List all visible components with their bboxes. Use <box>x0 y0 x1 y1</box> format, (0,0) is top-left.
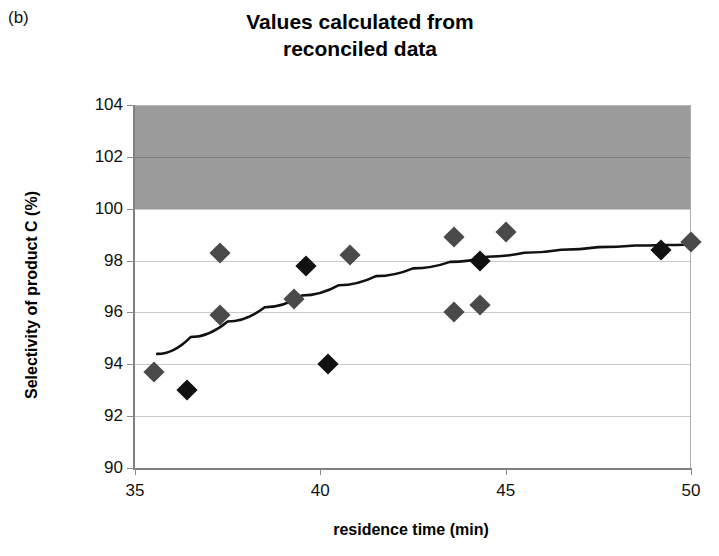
y-tick-94 <box>127 364 135 365</box>
x-tick-label-50: 50 <box>682 481 701 501</box>
y-tick-label-92: 92 <box>104 406 123 426</box>
trendline <box>135 105 691 468</box>
plot-area: 9092949698100102104 35404550 <box>133 105 691 470</box>
x-tick-45 <box>506 468 507 475</box>
y-tick-90 <box>127 468 135 469</box>
y-tick-100 <box>127 209 135 210</box>
x-tick-label-45: 45 <box>496 481 515 501</box>
x-tick-50 <box>691 468 692 475</box>
chart-title: Values calculated from reconciled data <box>140 8 580 62</box>
y-axis-label: Selectivity of product C (%) <box>23 145 41 445</box>
y-tick-label-96: 96 <box>104 302 123 322</box>
y-tick-label-90: 90 <box>104 458 123 478</box>
figure-panel-b: (b) Values calculated from reconciled da… <box>0 0 719 556</box>
y-tick-label-104: 104 <box>95 95 123 115</box>
y-tick-104 <box>127 105 135 106</box>
y-tick-98 <box>127 261 135 262</box>
chart-title-line-1: Values calculated from <box>140 8 580 35</box>
x-tick-label-35: 35 <box>126 481 145 501</box>
x-tick-label-40: 40 <box>311 481 330 501</box>
y-tick-92 <box>127 416 135 417</box>
y-tick-label-100: 100 <box>95 199 123 219</box>
y-tick-label-98: 98 <box>104 251 123 271</box>
x-tick-35 <box>135 468 136 475</box>
y-tick-label-102: 102 <box>95 147 123 167</box>
chart-title-line-2: reconciled data <box>140 35 580 62</box>
x-tick-40 <box>320 468 321 475</box>
y-tick-96 <box>127 312 135 313</box>
panel-label: (b) <box>8 8 29 28</box>
y-tick-102 <box>127 157 135 158</box>
plot-inner: 9092949698100102104 35404550 <box>135 105 691 468</box>
x-axis-label: residence time (min) <box>133 521 689 539</box>
y-tick-label-94: 94 <box>104 354 123 374</box>
trendline-path <box>157 245 691 354</box>
